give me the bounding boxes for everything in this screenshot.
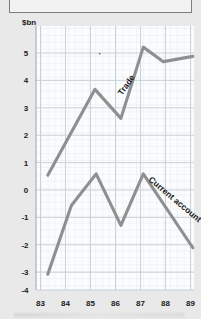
stray-dot-mark (99, 53, 101, 55)
y-tick-label: 2 (24, 131, 29, 140)
y-tick-label: 0 (24, 186, 29, 195)
x-tick-label: 85 (86, 299, 95, 308)
y-tick-label: 1 (24, 159, 29, 168)
x-tick-label: 88 (161, 299, 170, 308)
y-axis-unit-label: $bn (22, 18, 36, 27)
y-tick-label: -3 (21, 268, 29, 277)
plot-area-wrapper: $bn 5 4 3 2 1 0 -1 -2 -3 -4 83 84 85 86 … (0, 14, 201, 319)
y-tick-label: 3 (24, 104, 29, 113)
x-tick-label: 86 (111, 299, 120, 308)
top-empty-box (9, 0, 192, 13)
bottom-caption-smudge (14, 313, 184, 317)
x-tick-label: 87 (136, 299, 145, 308)
y-tick-label: 4 (24, 76, 29, 85)
y-tick-label: -2 (21, 241, 29, 250)
x-tick-label: 84 (61, 299, 70, 308)
y-tick-label: 5 (24, 49, 29, 58)
x-tick-label: 89 (186, 299, 195, 308)
y-tick-label: -1 (21, 213, 29, 222)
chart-figure: $bn 5 4 3 2 1 0 -1 -2 -3 -4 83 84 85 86 … (0, 14, 201, 319)
line-chart: $bn 5 4 3 2 1 0 -1 -2 -3 -4 83 84 85 86 … (0, 14, 201, 319)
x-tick-label: 83 (36, 299, 45, 308)
minor-gridlines (36, 26, 194, 290)
y-tick-label: -4 (21, 286, 29, 295)
x-tick-labels: 83 84 85 86 87 88 89 (36, 299, 195, 308)
y-tick-labels: 5 4 3 2 1 0 -1 -2 -3 -4 (21, 49, 29, 295)
